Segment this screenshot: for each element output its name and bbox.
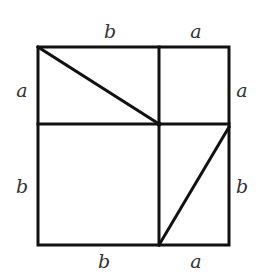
outer-square xyxy=(38,47,229,245)
label-top-right: a xyxy=(190,20,201,42)
label-top-left: b xyxy=(104,20,116,42)
label-left-bottom: b xyxy=(16,175,28,197)
diagonal-top-left-rectangle xyxy=(38,47,159,124)
label-right-bottom: b xyxy=(236,175,248,197)
center-vertex xyxy=(157,122,162,127)
label-left-top: a xyxy=(16,79,27,101)
label-right-top: a xyxy=(236,79,247,101)
label-bottom-right: a xyxy=(190,250,201,272)
label-bottom-left: b xyxy=(98,250,110,272)
diagonal-bottom-right-rectangle xyxy=(159,127,229,245)
pythagorean-diagram: b a a b a b b a xyxy=(0,0,258,279)
